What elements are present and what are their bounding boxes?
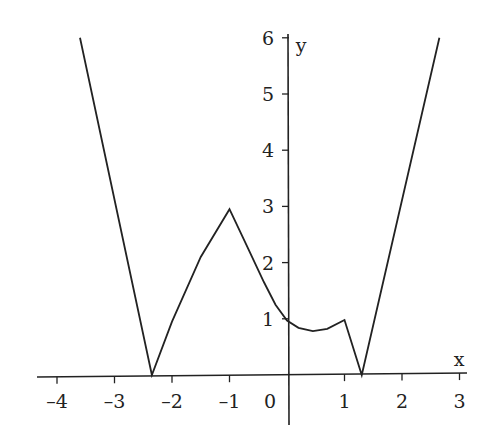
y-tick-label: 5 — [262, 83, 274, 105]
y-axis-line — [288, 34, 289, 425]
y-tick-label: 3 — [262, 195, 274, 217]
x-tick-label: –4 — [46, 390, 68, 412]
y-axis-label: y — [295, 34, 307, 56]
function-line — [80, 38, 439, 375]
tick-labels: –4–3–2–10123123456xy — [46, 27, 465, 412]
y-tick-label: 6 — [262, 27, 274, 49]
x-tick-label: –1 — [219, 390, 241, 412]
y-tick-label: 2 — [262, 252, 274, 274]
y-tick-label: 1 — [262, 308, 274, 330]
axes — [37, 34, 467, 425]
x-tick-label: 1 — [338, 390, 350, 412]
x-axis-label: x — [454, 348, 465, 370]
x-tick-label: –2 — [161, 390, 183, 412]
function-curve — [80, 38, 439, 375]
x-tick-label: 3 — [453, 390, 465, 412]
y-tick-label: 4 — [262, 139, 274, 161]
x-tick-label: –3 — [104, 390, 126, 412]
function-plot: –4–3–2–10123123456xy — [0, 0, 493, 443]
x-tick-label: 2 — [396, 390, 408, 412]
x-tick-label: 0 — [264, 390, 276, 412]
